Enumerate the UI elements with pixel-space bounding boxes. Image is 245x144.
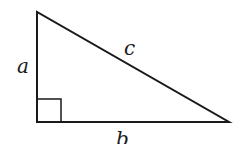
right-angle-marker [37,99,61,122]
label-c: c [124,36,135,60]
right-triangle-diagram: a c b [0,0,245,144]
triangle-shape [37,12,229,122]
label-a: a [17,54,29,78]
label-b: b [116,127,129,144]
